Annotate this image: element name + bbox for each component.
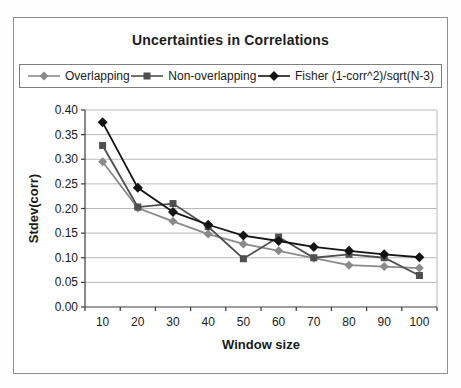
line-diamond-marker-icon [257, 70, 291, 82]
legend-label-non-overlapping: Non-overlapping [168, 69, 256, 83]
svg-text:0.15: 0.15 [55, 226, 79, 240]
chart-image: Uncertainties in Correlations Overlappin… [0, 0, 461, 388]
chart-legend: Overlapping Non-overlapping Fisher (1-co… [19, 64, 442, 88]
series-fisher-1-corr-2-sqrt-n-3 [98, 117, 425, 262]
series-overlapping [98, 157, 424, 272]
svg-text:0.10: 0.10 [55, 251, 79, 265]
svg-text:100: 100 [409, 315, 429, 329]
chart-frame: Uncertainties in Correlations Overlappin… [13, 17, 448, 374]
svg-text:10: 10 [96, 315, 110, 329]
svg-text:60: 60 [272, 315, 286, 329]
line-square-marker-icon [130, 70, 164, 82]
legend-item-fisher: Fisher (1-corr^2)/sqrt(N-3) [257, 69, 434, 83]
x-axis-ticks: 102030405060708090100 [85, 307, 437, 329]
svg-text:0.40: 0.40 [55, 103, 79, 117]
plot-area: 0.000.050.100.150.200.250.300.350.401020… [14, 94, 447, 372]
legend-label-overlapping: Overlapping [65, 69, 130, 83]
svg-text:0.20: 0.20 [55, 202, 79, 216]
x-axis-title: Window size [222, 337, 300, 352]
svg-text:0.30: 0.30 [55, 152, 79, 166]
line-diamond-marker-icon [27, 70, 61, 82]
svg-text:80: 80 [342, 315, 356, 329]
legend-item-overlapping: Overlapping [27, 69, 130, 83]
svg-text:40: 40 [202, 315, 216, 329]
svg-text:0.00: 0.00 [55, 300, 79, 314]
legend-label-fisher: Fisher (1-corr^2)/sqrt(N-3) [295, 69, 434, 83]
legend-item-non-overlapping: Non-overlapping [130, 69, 256, 83]
svg-text:20: 20 [131, 315, 145, 329]
svg-text:0.25: 0.25 [55, 177, 79, 191]
svg-text:70: 70 [307, 315, 321, 329]
svg-text:90: 90 [378, 315, 392, 329]
y-axis-ticks: 0.000.050.100.150.200.250.300.350.40 [55, 103, 85, 314]
svg-text:0.35: 0.35 [55, 128, 79, 142]
svg-text:50: 50 [237, 315, 251, 329]
svg-text:0.05: 0.05 [55, 275, 79, 289]
y-axis-title: Stdev(corr) [26, 174, 41, 243]
series-non-overlapping [99, 142, 423, 279]
svg-text:30: 30 [166, 315, 180, 329]
plot-svg: 0.000.050.100.150.200.250.300.350.401020… [14, 94, 447, 372]
chart-title: Uncertainties in Correlations [14, 32, 447, 48]
